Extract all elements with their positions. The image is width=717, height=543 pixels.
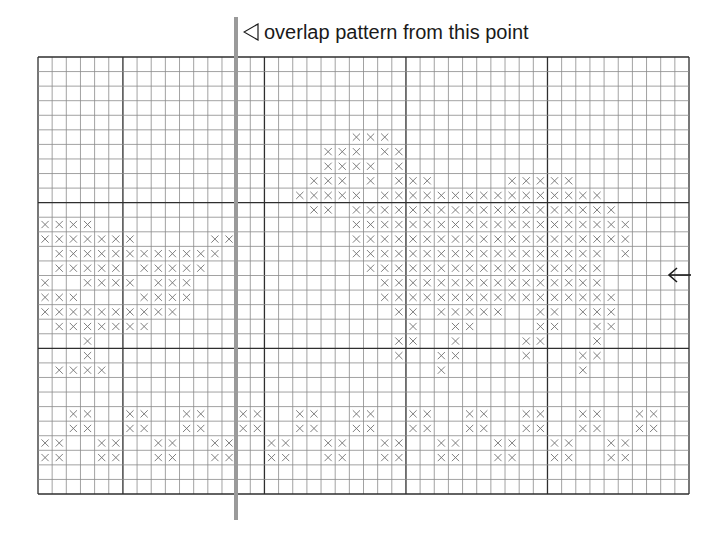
stitch-cross <box>452 221 459 228</box>
stitch-cross <box>98 235 105 242</box>
stitch-cross <box>551 294 558 301</box>
stitch-cross <box>98 367 105 374</box>
stitch-cross <box>466 265 473 272</box>
stitch-cross <box>579 367 586 374</box>
stitch-cross <box>367 235 374 242</box>
stitch-cross <box>466 425 473 432</box>
stitch-cross <box>593 308 600 315</box>
stitch-cross <box>551 206 558 213</box>
stitch-cross <box>551 235 558 242</box>
stitch-cross <box>579 192 586 199</box>
stitch-cross <box>310 177 317 184</box>
stitch-cross <box>395 148 402 155</box>
stitch-cross <box>424 250 431 257</box>
stitch-cross <box>56 265 63 272</box>
stitch-cross <box>395 177 402 184</box>
stitch-cross <box>466 235 473 242</box>
stitch-cross <box>608 235 615 242</box>
stitch-cross <box>296 192 303 199</box>
stitch-cross <box>424 177 431 184</box>
stitch-cross <box>367 425 374 432</box>
stitch-cross <box>424 221 431 228</box>
stitch-cross <box>523 279 530 286</box>
stitch-cross <box>155 265 162 272</box>
stitch-cross <box>381 206 388 213</box>
stitch-cross <box>126 308 133 315</box>
stitch-cross <box>452 206 459 213</box>
stitch-cross <box>353 425 360 432</box>
stitch-cross <box>523 294 530 301</box>
stitch-cross <box>480 206 487 213</box>
stitch-cross <box>367 163 374 170</box>
stitch-cross <box>579 410 586 417</box>
stitch-cross <box>367 134 374 141</box>
overlap-start-line[interactable] <box>234 17 238 520</box>
stitch-cross <box>325 206 332 213</box>
stitch-cross <box>508 235 515 242</box>
stitch-cross <box>155 439 162 446</box>
stitch-cross <box>424 265 431 272</box>
stitch-cross <box>466 279 473 286</box>
stitch-cross <box>565 279 572 286</box>
stitch-cross <box>56 250 63 257</box>
stitch-cross <box>381 148 388 155</box>
stitch-cross <box>84 352 91 359</box>
stitch-cross <box>84 367 91 374</box>
stitch-cross <box>339 439 346 446</box>
stitch-cross <box>70 367 77 374</box>
stitch-cross <box>438 250 445 257</box>
stitch-cross <box>225 454 232 461</box>
stitch-cross <box>70 308 77 315</box>
stitch-cross <box>310 410 317 417</box>
stitch-cross <box>551 279 558 286</box>
stitch-cross <box>452 250 459 257</box>
stitch-cross <box>41 294 48 301</box>
stitch-cross <box>508 294 515 301</box>
stitch-cross <box>466 206 473 213</box>
stitch-cross <box>395 454 402 461</box>
stitch-cross <box>409 337 416 344</box>
stitch-cross <box>622 454 629 461</box>
stitch-cross <box>593 352 600 359</box>
stitch-cross <box>593 337 600 344</box>
stitch-cross <box>381 294 388 301</box>
stitch-cross <box>126 235 133 242</box>
stitch-cross <box>466 192 473 199</box>
stitch-cross <box>395 352 402 359</box>
stitch-cross <box>608 206 615 213</box>
stitch-cross <box>480 294 487 301</box>
stitch-cross <box>466 221 473 228</box>
stitch-cross <box>466 410 473 417</box>
stitch-cross <box>395 235 402 242</box>
stitch-cross <box>409 250 416 257</box>
stitch-cross <box>565 192 572 199</box>
stitch-cross <box>112 279 119 286</box>
stitch-cross <box>339 163 346 170</box>
stitch-cross <box>254 410 261 417</box>
stitch-cross <box>494 294 501 301</box>
stitch-cross <box>240 410 247 417</box>
stitch-cross <box>367 265 374 272</box>
stitch-cross <box>438 352 445 359</box>
stitch-cross <box>537 410 544 417</box>
stitch-cross <box>254 425 261 432</box>
stitch-cross <box>508 192 515 199</box>
stitch-cross <box>579 352 586 359</box>
stitch-cross <box>225 439 232 446</box>
stitch-cross <box>353 192 360 199</box>
stitch-cross <box>353 134 360 141</box>
stitch-cross <box>424 410 431 417</box>
stitch-cross <box>523 337 530 344</box>
stitch-cross <box>523 250 530 257</box>
stitch-cross <box>183 279 190 286</box>
stitch-cross <box>622 250 629 257</box>
stitch-cross <box>282 439 289 446</box>
stitch-cross <box>494 439 501 446</box>
stitch-cross <box>480 221 487 228</box>
stitch-cross <box>409 279 416 286</box>
stitch-cross <box>353 235 360 242</box>
stitch-cross <box>98 308 105 315</box>
stitch-cross <box>565 235 572 242</box>
stitch-cross <box>537 294 544 301</box>
stitch-cross <box>169 250 176 257</box>
